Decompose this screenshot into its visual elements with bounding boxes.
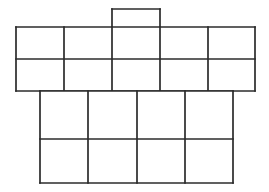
figure-root	[0, 0, 269, 192]
tab-face	[112, 9, 160, 27]
net-diagram-svg	[0, 0, 269, 192]
